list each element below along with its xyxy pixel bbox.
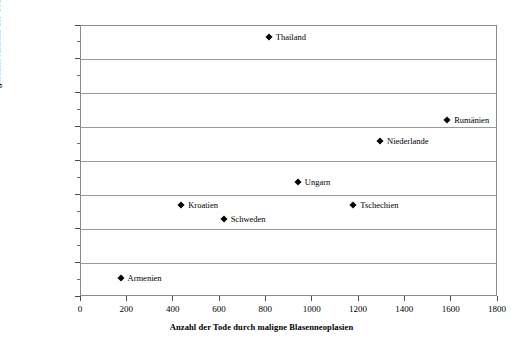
x-tick-mark — [404, 296, 405, 301]
plot-area — [80, 25, 497, 296]
data-point-label: Armenien — [128, 273, 162, 282]
y-tick-mark — [75, 126, 80, 127]
x-tick-mark — [311, 296, 312, 301]
data-point-label: Kroatien — [188, 201, 218, 210]
x-tick-mark — [358, 296, 359, 301]
y-tick-mark — [75, 262, 80, 263]
x-tick-label: 1600 — [426, 305, 476, 314]
data-point-label: Ungarn — [305, 177, 331, 186]
x-tick-label: 200 — [101, 305, 151, 314]
x-tick-label: 400 — [148, 305, 198, 314]
gridline — [81, 127, 496, 128]
gridline — [81, 263, 496, 264]
x-tick-label: 1800 — [472, 305, 522, 314]
data-point-label: Rumänien — [454, 115, 489, 124]
x-tick-mark — [172, 296, 173, 301]
x-tick-mark — [126, 296, 127, 301]
x-tick-label: 0 — [55, 305, 105, 314]
y-tick-minor-mark — [77, 177, 80, 178]
scatter-chart: gesamte Anzahl der Tode durch Neoplasien… — [0, 0, 523, 350]
y-tick-minor-mark — [77, 41, 80, 42]
x-tick-mark — [265, 296, 266, 301]
x-tick-label: 1200 — [333, 305, 383, 314]
y-tick-mark — [75, 228, 80, 229]
y-tick-mark — [75, 194, 80, 195]
x-tick-mark — [497, 296, 498, 301]
y-tick-minor-mark — [77, 143, 80, 144]
x-tick-label: 1400 — [379, 305, 429, 314]
y-tick-mark — [75, 25, 80, 26]
gridline — [81, 229, 496, 230]
data-point-label: Tschechien — [360, 201, 398, 210]
data-point-label: Niederlande — [387, 137, 429, 146]
gridline — [81, 93, 496, 94]
y-tick-minor-mark — [77, 279, 80, 280]
y-tick-minor-mark — [77, 109, 80, 110]
y-tick-minor-mark — [77, 75, 80, 76]
data-point-label: Thailand — [276, 33, 306, 42]
gridline — [81, 195, 496, 196]
y-tick-mark — [75, 92, 80, 93]
y-tick-mark — [75, 58, 80, 59]
gridline — [81, 161, 496, 162]
x-tick-mark — [219, 296, 220, 301]
x-tick-label: 1000 — [287, 305, 337, 314]
x-tick-label: 600 — [194, 305, 244, 314]
x-tick-label: 800 — [240, 305, 290, 314]
x-tick-mark — [80, 296, 81, 301]
y-tick-mark — [75, 160, 80, 161]
x-tick-mark — [450, 296, 451, 301]
y-axis-title: gesamte Anzahl der Tode durch Neoplasien — [0, 0, 2, 88]
y-tick-minor-mark — [77, 245, 80, 246]
x-axis-title: Anzahl der Tode durch maligne Blasenneop… — [0, 322, 523, 332]
data-point-label: Schweden — [231, 215, 266, 224]
y-tick-minor-mark — [77, 211, 80, 212]
gridline — [81, 59, 496, 60]
